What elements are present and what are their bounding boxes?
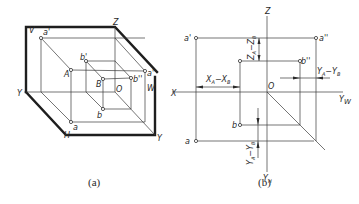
point-a	[194, 139, 197, 142]
label-a-prime: a'	[43, 28, 50, 37]
label-Z: Z	[112, 18, 119, 27]
figure-b-orthographic: Z X O YW YH a' a'' a b'' b XA−XB ZA−ZB Y…	[170, 7, 352, 189]
projector-line	[41, 92, 71, 122]
label-a-double-prime: a''	[147, 69, 156, 78]
label-X: X	[170, 89, 177, 98]
caption-a: (a)	[88, 176, 101, 189]
caption-b: (b)	[258, 176, 271, 189]
label-a-double-prime: a''	[319, 34, 328, 43]
arrow-left-icon	[196, 86, 203, 89]
label-a: a	[73, 123, 78, 132]
arrow-down-icon	[257, 118, 260, 125]
h-w-plane-frame	[26, 77, 155, 135]
label-Yw: YW	[339, 95, 352, 106]
label-B: B	[96, 80, 102, 89]
label-V: V	[29, 26, 35, 35]
label-O: O	[116, 85, 122, 94]
label-Y: Y	[157, 134, 163, 143]
label-b-double-prime: b''	[133, 75, 142, 84]
label-a: a	[185, 137, 190, 146]
projector-line	[71, 70, 145, 71]
point-B	[101, 77, 104, 80]
point-a-prime	[194, 36, 197, 39]
label-O: O	[268, 82, 274, 91]
point-b	[238, 123, 241, 126]
label-b-double-prime: b''	[301, 57, 310, 66]
label-H: H	[64, 131, 70, 140]
projection-diagram: V Z Y H Y W O a' A a'' a b' B b'' b (a)	[0, 0, 359, 204]
label-a-prime: a'	[184, 34, 191, 43]
label-xa-xb: XA−XB	[205, 75, 231, 85]
projector-line	[115, 61, 131, 78]
arrow-up-icon	[258, 38, 261, 44]
figure-a-pictorial: V Z Y H Y W O a' A a'' a b' B b'' b (a)	[17, 18, 163, 189]
point-b-prime	[238, 59, 241, 62]
label-ya-yb-h: YA−YB	[246, 141, 256, 165]
arrow-up-icon	[257, 141, 260, 148]
projector-line	[41, 38, 71, 70]
label-b: b	[97, 111, 102, 120]
label-W: W	[147, 84, 156, 93]
label-za-zb: ZA−ZB	[247, 35, 257, 61]
label-b-prime: b'	[80, 53, 87, 62]
arrow-right-icon	[233, 86, 240, 89]
label-X: Y	[17, 89, 23, 98]
y-axis-line	[115, 92, 155, 135]
projector-line	[103, 78, 131, 79]
label-A: A	[63, 70, 69, 79]
projector-line	[86, 92, 103, 109]
arrow-down-icon	[258, 55, 261, 61]
label-Z: Z	[264, 7, 271, 16]
point-a-double-prime	[314, 36, 317, 39]
label-ya-yb-w: YA−YB	[317, 67, 341, 77]
arrow-right-icon	[293, 77, 300, 80]
point-A	[69, 68, 72, 71]
label-b: b	[232, 121, 237, 130]
